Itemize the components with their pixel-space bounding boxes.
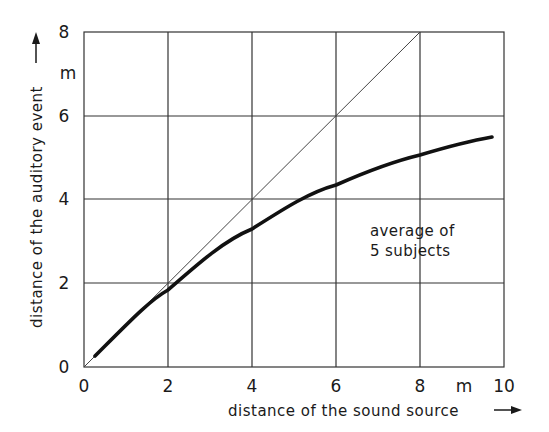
x-unit: m [456,376,473,396]
annotation-line-2: 5 subjects [370,242,451,260]
y-tick-4: 4 [59,189,70,209]
x-tick-0: 0 [79,376,90,396]
y-axis-label: distance of the auditory event [28,86,46,328]
y-tick-2: 2 [59,273,70,293]
x-tick-labels: 0 2 4 6 8 m 10 [79,376,515,396]
x-tick-10: 10 [493,376,515,396]
chart: 0 2 4 6 8 m 0 2 4 6 8 m 10 distance of t… [0,0,549,432]
x-tick-4: 4 [247,376,258,396]
y-tick-8: 8 [59,22,70,42]
y-arrow-icon [32,32,40,63]
annotation-line-1: average of [370,222,455,240]
x-arrow-icon [494,406,522,414]
grid [84,32,504,367]
y-unit: m [60,63,77,83]
x-axis-label: distance of the sound source [228,402,459,420]
y-tick-labels: 0 2 4 6 8 m [59,22,77,377]
x-tick-8: 8 [415,376,426,396]
x-tick-6: 6 [331,376,342,396]
x-tick-2: 2 [163,376,174,396]
y-tick-0: 0 [59,357,70,377]
y-tick-6: 6 [59,106,70,126]
